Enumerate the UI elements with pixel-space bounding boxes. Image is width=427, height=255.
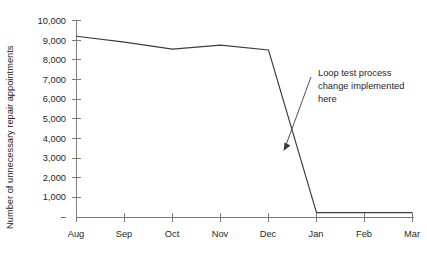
y-tick-label: 7,000 [43,75,66,85]
data-series-line [77,36,413,212]
annotation-label: Loop test process change implemented her… [318,68,404,104]
y-tick-label: 8,000 [43,55,66,65]
annotation-leader-line [286,77,311,145]
x-tick-label: Mar [404,229,420,239]
annotation-line-1: Loop test process [318,68,392,78]
y-tick-label: 3,000 [43,153,66,163]
y-tick-label: 5,000 [43,114,66,124]
y-tick-label: – [61,212,67,222]
y-tick-label: 6,000 [43,94,66,104]
line-chart: Number of unnecessary repair appointment… [0,0,427,255]
x-tick-label: Jan [309,229,324,239]
chart-container: Number of unnecessary repair appointment… [0,0,427,255]
y-axis-tick-labels: 10,000 9,000 8,000 7,000 6,000 5,000 4,0… [38,16,67,222]
x-tick-label: Dec [260,229,277,239]
y-tick-label: 10,000 [38,16,66,26]
y-axis-title: Number of unnecessary repair appointment… [5,45,15,229]
x-axis-tick-labels: Aug Sep Oct Nov Dec Jan Feb Mar [68,229,420,239]
x-tick-label: Nov [212,229,229,239]
y-tick-label: 1,000 [43,192,66,202]
y-axis-title-label: Number of unnecessary repair appointment… [5,45,15,229]
annotation-line-2: change implemented [318,81,404,91]
y-tick-label: 4,000 [43,134,66,144]
annotation-line-3: here [318,94,337,104]
x-tick-label: Oct [165,229,180,239]
y-tick-label: 9,000 [43,36,66,46]
x-tick-label: Feb [356,229,372,239]
arrow-head-icon [284,143,291,152]
x-tick-label: Sep [116,229,133,239]
y-tick-label: 2,000 [43,173,66,183]
x-tick-label: Aug [68,229,85,239]
